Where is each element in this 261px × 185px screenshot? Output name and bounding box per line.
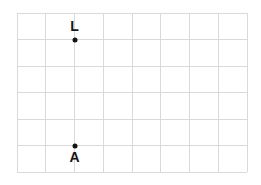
- grid-diagram-canvas: LA: [0, 0, 261, 185]
- point-marker-l: [72, 37, 77, 42]
- point-label-l: L: [70, 19, 79, 33]
- point-marker-a: [72, 143, 77, 148]
- grid-background: [0, 0, 261, 185]
- point-label-a: A: [69, 150, 79, 164]
